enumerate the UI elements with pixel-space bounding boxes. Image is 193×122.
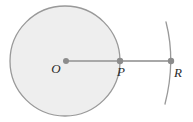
point-R-dot	[168, 58, 174, 64]
point-O-dot	[63, 58, 69, 64]
geometry-figure: O P R	[0, 0, 193, 122]
point-R-label: R	[173, 65, 182, 80]
figure-canvas: O P R	[0, 0, 193, 122]
point-O-label: O	[51, 61, 61, 76]
point-P-label: P	[116, 64, 125, 79]
